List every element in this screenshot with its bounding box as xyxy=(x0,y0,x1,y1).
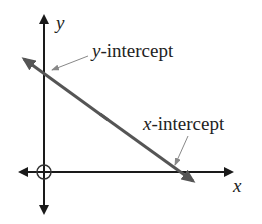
x-intercept-label: x-intercept xyxy=(142,113,225,134)
line-graph xyxy=(24,59,108,120)
coordinate-diagram: y x y-intercept x-intercept xyxy=(0,0,262,224)
y-intercept-pointer xyxy=(52,56,88,70)
y-axis-label: y xyxy=(54,12,65,33)
x-axis-label: x xyxy=(232,175,242,196)
y-intercept-label: y-intercept xyxy=(90,40,174,61)
x-intercept-pointer xyxy=(175,136,188,165)
